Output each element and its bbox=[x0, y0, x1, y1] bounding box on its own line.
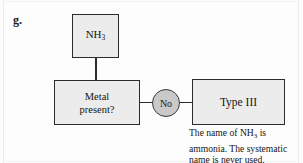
connector-formula-to-decision bbox=[95, 57, 97, 81]
connector-branch-to-result bbox=[178, 102, 193, 104]
formula-text: NH3 bbox=[86, 28, 106, 44]
decision-line-1: Metal bbox=[85, 91, 110, 102]
formula-element: NH bbox=[86, 28, 102, 40]
page-border-left bbox=[3, 0, 4, 163]
flowchart-figure: g. NH3 Metalpresent? No Type III The nam… bbox=[0, 0, 303, 163]
formula-subscript: 3 bbox=[102, 33, 106, 42]
page-border-top bbox=[3, 1, 299, 2]
item-letter-label: g. bbox=[13, 13, 22, 27]
result-label-text: Type III bbox=[220, 96, 257, 108]
decision-text: Metalpresent? bbox=[80, 90, 115, 116]
branch-label-text: No bbox=[160, 98, 172, 109]
flowchart-node-formula: NH3 bbox=[72, 14, 119, 58]
flowchart-node-result: Type III bbox=[192, 79, 285, 125]
flowchart-branch-no: No bbox=[152, 89, 180, 117]
caption-part-1: The name of NH bbox=[189, 127, 254, 138]
flowchart-node-decision: Metalpresent? bbox=[54, 80, 140, 125]
decision-line-2: present? bbox=[80, 104, 115, 115]
figure-caption: The name of NH3 is ammonia. The systemat… bbox=[189, 127, 301, 163]
